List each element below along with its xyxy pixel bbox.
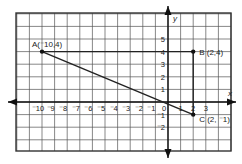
grid-lines	[16, 13, 231, 151]
x-tick-label: 2	[191, 104, 195, 113]
point-C	[191, 112, 195, 116]
y-tick-label: ⁻2	[157, 123, 165, 132]
x-axis-label: x	[227, 89, 233, 98]
x-tick-label: ⁻3	[122, 104, 130, 113]
x-tick-label: 1	[179, 104, 183, 113]
y-axis-label: y	[172, 14, 178, 23]
y-tick-label: ⁻1	[157, 111, 165, 120]
x-axis-left-arrow-icon	[8, 99, 17, 106]
y-tick-label: 3	[161, 60, 165, 69]
point-A	[40, 49, 44, 53]
x-tick-label: ⁻10	[32, 104, 44, 113]
point-A-label: A(⁻10,4)	[32, 40, 63, 49]
x-tick-label: ⁻9	[47, 104, 55, 113]
point-C-label: C (2, ⁻1)	[199, 115, 230, 124]
x-tick-label: ⁻5	[97, 104, 105, 113]
grid-border	[16, 13, 231, 151]
y-axis-up-arrow-icon	[165, 6, 172, 15]
x-tick-label: ⁻2	[135, 104, 143, 113]
x-tick-label: 3	[204, 104, 208, 113]
x-tick-label: ⁻8	[59, 104, 67, 113]
x-tick-label: ⁻6	[84, 104, 92, 113]
x-tick-label: ⁻7	[72, 104, 80, 113]
y-axis-down-arrow-icon	[165, 149, 172, 158]
x-tick-label: ⁻4	[110, 104, 118, 113]
point-B-label: B (2,4)	[199, 48, 223, 57]
y-tick-label: 2	[161, 73, 165, 82]
y-tick-label: 4	[161, 48, 165, 57]
y-tick-label: 1	[161, 85, 165, 94]
x-tick-label: ⁻1	[147, 104, 155, 113]
point-B	[191, 49, 195, 53]
coordinate-plane: xy ⁻10⁻9⁻8⁻7⁻6⁻5⁻4⁻3⁻2⁻1012354321⁻1⁻2 A(…	[0, 0, 242, 164]
y-tick-label: 5	[161, 35, 165, 44]
